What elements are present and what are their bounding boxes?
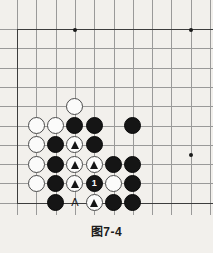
white-stone[interactable] [28, 136, 45, 153]
black-stone[interactable] [124, 117, 141, 134]
black-stone[interactable] [47, 156, 64, 173]
triangle-mark-icon [71, 161, 79, 169]
grid-line-vertical [171, 0, 172, 215]
black-stone[interactable] [86, 117, 103, 134]
triangle-mark-icon [90, 199, 98, 207]
white-stone[interactable] [28, 117, 45, 134]
white-stone[interactable] [105, 175, 122, 192]
grid-line-horizontal [0, 87, 213, 88]
white-stone[interactable] [66, 98, 83, 115]
board-edge-left [17, 29, 18, 203]
board-edge-top [17, 29, 213, 30]
white-stone-marked-triangle[interactable] [86, 194, 103, 211]
black-stone-move-1[interactable]: 1 [86, 175, 103, 192]
grid-line-horizontal [0, 106, 213, 107]
star-point [73, 28, 77, 32]
white-stone[interactable] [47, 117, 64, 134]
black-stone[interactable] [47, 136, 64, 153]
stone-move-number: 1 [92, 179, 97, 188]
grid-line-vertical [191, 0, 192, 215]
triangle-mark-icon [71, 141, 79, 149]
triangle-mark-icon [90, 161, 98, 169]
grid-line-vertical [152, 0, 153, 215]
black-stone[interactable] [124, 194, 141, 211]
point-label-a: A [67, 197, 83, 208]
grid-line-vertical [210, 0, 211, 215]
black-stone[interactable] [124, 175, 141, 192]
white-stone-marked-triangle[interactable] [86, 156, 103, 173]
black-stone[interactable] [47, 194, 64, 211]
black-stone[interactable] [105, 194, 122, 211]
black-stone[interactable] [86, 136, 103, 153]
grid-line-horizontal [0, 68, 213, 69]
white-stone[interactable] [28, 175, 45, 192]
white-stone-marked-triangle[interactable] [66, 175, 83, 192]
go-board[interactable]: 1A [0, 0, 213, 215]
black-stone[interactable] [66, 117, 83, 134]
star-point [189, 28, 193, 32]
star-point [189, 153, 193, 157]
figure-caption: 图7-4 [0, 222, 213, 239]
black-stone[interactable] [124, 156, 141, 173]
go-figure: 1A 图7-4 [0, 0, 213, 253]
black-stone[interactable] [47, 175, 64, 192]
triangle-mark-icon [71, 180, 79, 188]
black-stone[interactable] [105, 156, 122, 173]
white-stone-marked-triangle[interactable] [66, 156, 83, 173]
white-stone-marked-triangle[interactable] [66, 136, 83, 153]
grid-line-horizontal [0, 48, 213, 49]
white-stone[interactable] [28, 156, 45, 173]
